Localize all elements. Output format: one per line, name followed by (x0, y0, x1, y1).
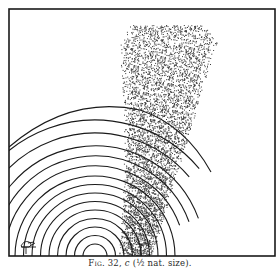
arc-line (75, 235, 116, 256)
arc-line (58, 219, 133, 256)
caption-figure-label: Fig. 32, (88, 258, 122, 268)
arc-line-outer (9, 107, 211, 172)
figure-caption: Fig. 32, c (½ nat. size). (0, 257, 280, 269)
caption-scale: (½ nat. size). (133, 258, 192, 268)
arc-line (0, 146, 198, 256)
concentric-arcs (0, 107, 211, 256)
engraving-canvas (0, 0, 280, 260)
arc-line (0, 156, 189, 256)
caption-panel-letter: c (125, 258, 130, 268)
arc-line (83, 244, 107, 256)
figure-illustration (0, 0, 280, 260)
